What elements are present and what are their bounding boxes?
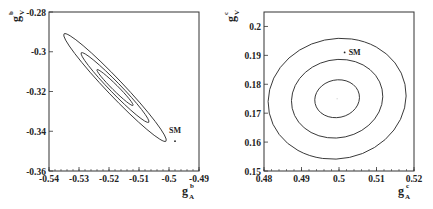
y-tick-label: 0.17 bbox=[244, 109, 261, 119]
x-tick-label: 0.51 bbox=[368, 174, 385, 184]
svg-text:g: g bbox=[224, 16, 238, 22]
y-tick-label: -0.32 bbox=[26, 87, 46, 97]
y-tick-label: -0.3 bbox=[31, 47, 46, 57]
x-tick-label: -0.53 bbox=[69, 174, 89, 184]
svg-text:V: V bbox=[233, 10, 241, 15]
right-best-fit-marker bbox=[337, 98, 338, 99]
x-tick-label: -0.51 bbox=[129, 174, 149, 184]
y-tick-label: -0.34 bbox=[26, 127, 46, 137]
right-xlabel: g c A bbox=[398, 182, 410, 201]
left-contours bbox=[58, 28, 172, 147]
y-tick-label: 0.15 bbox=[244, 167, 261, 177]
contour-middle bbox=[77, 49, 152, 126]
svg-text:V: V bbox=[18, 10, 26, 15]
svg-text:A: A bbox=[189, 193, 194, 201]
x-tick-label: -0.5 bbox=[161, 174, 176, 184]
y-tick-label: 0.2 bbox=[249, 22, 261, 32]
left-plot: -0.54-0.53-0.52-0.51-0.5-0.49-0.28-0.3-0… bbox=[7, 8, 209, 202]
svg-text:c: c bbox=[222, 12, 230, 15]
svg-text:b: b bbox=[190, 182, 194, 190]
x-tick-label: 0.5 bbox=[333, 174, 345, 184]
y-tick-label: -0.36 bbox=[26, 167, 46, 177]
y-tick-label: -0.28 bbox=[26, 8, 46, 18]
left-xlabel: g b A bbox=[182, 182, 194, 201]
svg-text:A: A bbox=[405, 193, 410, 201]
left-sm-marker bbox=[174, 140, 176, 142]
left-plot-frame bbox=[49, 12, 199, 171]
left-axis-ticks: -0.54-0.53-0.52-0.51-0.5-0.49-0.28-0.3-0… bbox=[26, 8, 209, 185]
svg-text:g: g bbox=[182, 184, 188, 198]
svg-text:c: c bbox=[406, 182, 409, 190]
svg-text:b: b bbox=[7, 11, 15, 15]
x-tick-label: -0.52 bbox=[99, 174, 119, 184]
y-tick-label: 0.18 bbox=[244, 80, 261, 90]
right-ylabel: g c V bbox=[222, 10, 241, 22]
left-ylabel: g b V bbox=[7, 10, 26, 22]
svg-text:g: g bbox=[398, 184, 404, 198]
y-tick-label: 0.16 bbox=[244, 138, 261, 148]
left-sm-label: SM bbox=[169, 126, 181, 135]
y-tick-label: 0.19 bbox=[244, 51, 261, 61]
right-plot: 0.480.490.50.510.520.20.190.180.170.160.… bbox=[222, 10, 423, 201]
contour-inner bbox=[95, 68, 135, 108]
figure: -0.54-0.53-0.52-0.51-0.5-0.49-0.28-0.3-0… bbox=[0, 0, 433, 209]
contour-outer bbox=[58, 28, 172, 147]
right-sm-marker bbox=[344, 52, 346, 54]
x-tick-label: 0.49 bbox=[293, 174, 310, 184]
right-sm-label: SM bbox=[349, 48, 361, 57]
svg-text:g: g bbox=[9, 16, 23, 22]
right-plot-frame bbox=[264, 12, 414, 171]
